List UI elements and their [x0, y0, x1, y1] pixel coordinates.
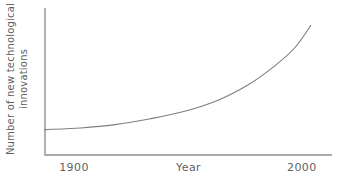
x-tick-2000: 2000 [287, 161, 317, 174]
x-tick-1900: 1900 [59, 161, 89, 174]
y-axis-label: Number of new technological innovations [5, 0, 30, 159]
x-axis-title: Year [176, 161, 201, 174]
innovation-growth-chart: Number of new technological innovations … [0, 0, 349, 188]
plot-area [0, 0, 349, 188]
y-axis-label-line2: innovations [17, 0, 30, 159]
y-axis-label-line1: Number of new technological [5, 0, 18, 159]
